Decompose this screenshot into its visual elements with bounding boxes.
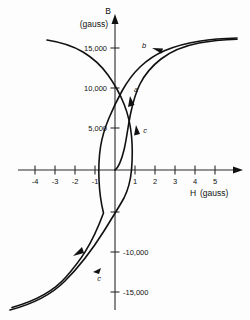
y-axis-arrowhead [112, 14, 119, 24]
x-tick-label-4: 4 [193, 177, 197, 186]
y-tick-label-10000: 10,000 [84, 84, 107, 93]
x-tick-label--2: -2 [72, 177, 79, 186]
x-tick-label--3: -3 [52, 177, 59, 186]
curve-arrow-descending-bottom [73, 247, 84, 256]
x-tick-label-2: 2 [153, 177, 157, 186]
y-axis-unit-label: (gauss) [80, 19, 109, 29]
y-tick-label--10000: -10,000 [123, 248, 148, 257]
curve-group [10, 38, 237, 310]
axis-title-group: B (gauss) H (gauss) [80, 6, 229, 198]
x-tick-label--4: -4 [32, 177, 39, 186]
y-tick-label--15000: -15,000 [123, 288, 148, 297]
chart-canvas: -4 -3 -2 -1 1 2 3 4 5 15,000 10,000 5,00… [0, 0, 250, 320]
curve-arrow-group [73, 48, 163, 274]
curve-label-c-upper: c [143, 126, 147, 135]
curve-label-a: a [134, 85, 138, 94]
x-axis-title: H [190, 188, 196, 198]
x-tick-label--1: -1 [92, 177, 99, 186]
x-tick-label-5: 5 [213, 177, 217, 186]
curve-label-c-lower: c [97, 274, 101, 283]
curve-descending-branch [12, 38, 237, 308]
x-axis-unit-label: (gauss) [200, 188, 229, 198]
curve-ascending-branch [10, 40, 132, 310]
y-axis-title: B [105, 6, 111, 16]
curve-label-b: b [142, 41, 146, 50]
x-tick-label-1: 1 [133, 177, 137, 186]
y-tick-label-15000: 15,000 [84, 44, 107, 53]
x-axis-arrowhead [233, 167, 243, 174]
hysteresis-chart: -4 -3 -2 -1 1 2 3 4 5 15,000 10,000 5,00… [0, 0, 250, 320]
curve-arrow-ascending-up [134, 125, 140, 136]
curve-arrow-descending-top [152, 48, 163, 54]
curve-label-group: b a c c [97, 41, 147, 283]
x-tick-label-group: -4 -3 -2 -1 1 2 3 4 5 [32, 177, 217, 186]
x-tick-label-3: 3 [173, 177, 177, 186]
axes-group [18, 14, 243, 310]
